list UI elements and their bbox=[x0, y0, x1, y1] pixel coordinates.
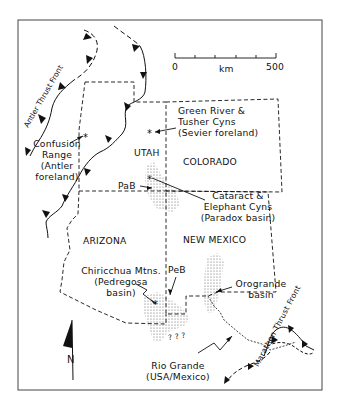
geologic-map: * * * * Antler Thrust Front bbox=[0, 0, 338, 408]
north-arrow-icon bbox=[63, 320, 73, 380]
scale-max-label: 500 bbox=[266, 61, 284, 72]
north-label: N bbox=[67, 354, 75, 365]
state-label-colorado: COLORADO bbox=[183, 156, 237, 167]
basins bbox=[143, 162, 224, 342]
cataract-star: * bbox=[147, 174, 152, 185]
orogrande-label: Orogrande basin bbox=[233, 278, 289, 300]
cataract-label: Cataract & Elephant Cyns (Paradox basin) bbox=[192, 190, 284, 223]
confusion-range-label: Confusion Range (Antler foreland) bbox=[20, 138, 94, 182]
paradox-basin-abbrev: PaB bbox=[118, 180, 136, 191]
state-label-arizona: ARIZONA bbox=[83, 235, 126, 246]
orogrande-basin-area bbox=[203, 253, 224, 313]
sevier-thrust-front bbox=[46, 26, 146, 238]
scale-unit-label: km bbox=[219, 63, 234, 74]
pedregosa-basin-abbrev: PeB bbox=[168, 264, 186, 275]
scale-bar bbox=[175, 53, 276, 58]
green-river-star: * bbox=[147, 128, 152, 139]
state-label-utah: UTAH bbox=[134, 147, 160, 158]
chiricahua-label: Chiricchua Mtns. (Pedregosa basin) bbox=[77, 265, 165, 298]
scale-min-label: 0 bbox=[172, 61, 178, 72]
state-label-new-mexico: NEW MEXICO bbox=[183, 234, 246, 245]
green-river-label: Green River & Tusher Cyns (Sevier forela… bbox=[178, 105, 258, 138]
rio-grande-label: Rio Grande (USA/Mexico) bbox=[140, 360, 216, 382]
chiricahua-star: * bbox=[153, 299, 158, 310]
